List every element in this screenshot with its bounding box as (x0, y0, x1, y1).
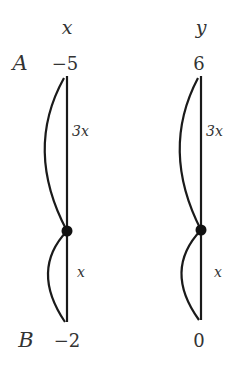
y-upper-arc (180, 78, 201, 230)
y-axis-header: y (195, 16, 207, 38)
x-axis-header: x (62, 16, 73, 38)
x-upper-segment-label: 3x (72, 123, 89, 139)
ratio-diagram: x y A B −5 6 −2 0 3x x 3x x (0, 0, 241, 367)
x-division-point (62, 226, 73, 237)
y-lower-segment-label: x (214, 264, 222, 280)
x-bottom-value: −2 (54, 330, 81, 351)
y-lower-arc (181, 230, 201, 320)
y-division-point (196, 225, 207, 236)
y-upper-segment-label: 3x (206, 123, 223, 139)
y-top-value: 6 (193, 53, 204, 74)
x-lower-segment-label: x (77, 264, 85, 280)
point-b-label: B (17, 328, 33, 352)
point-a-label: A (10, 51, 27, 75)
x-upper-arc (45, 78, 67, 231)
x-top-value: −5 (52, 53, 79, 74)
x-lower-arc (48, 231, 67, 322)
y-bottom-value: 0 (193, 330, 204, 351)
